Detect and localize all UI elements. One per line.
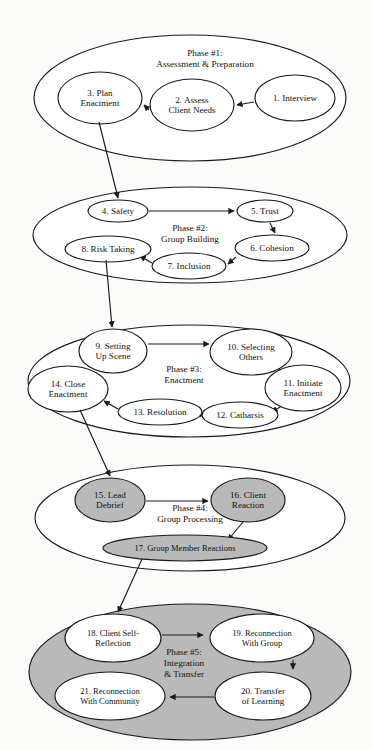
node-11-label: 11. InitiateEnactment [283,378,322,399]
node-14[interactable]: 14. CloseEnactment [28,366,108,412]
node-8[interactable]: 8. Risk Taking [65,236,151,262]
node-9-label: 9. SettingUp Scene [95,341,130,362]
node-15[interactable]: 15. LeadDebrief [75,478,145,522]
process-diagram: Phase #1:Assessment & Preparation1. Inte… [0,0,372,750]
node-20-label: 20. Transferof Learning [241,686,285,707]
node-5-label: 5. Trust [251,206,279,216]
node-10[interactable]: 10. SelectingOthers [210,329,292,375]
node-4-label: 4. Safety [102,206,135,216]
phase-3: Phase #3:Enactment9. SettingUp Scene10. … [28,325,350,437]
node-2[interactable]: 2. AssessClient Needs [150,79,234,131]
node-21-label: 21. ReconnectionWith Community [80,686,140,707]
node-4[interactable]: 4. Safety [88,200,148,222]
node-12[interactable]: 12. Catharsis [202,402,278,428]
node-8-label: 8. Risk Taking [81,244,134,254]
phase-2: Phase #2:Group Building4. Safety5. Trust… [33,187,347,283]
node-21[interactable]: 21. ReconnectionWith Community [55,672,165,720]
node-16[interactable]: 16. ClientReaction [211,478,285,522]
node-9[interactable]: 9. SettingUp Scene [79,329,147,373]
phase-3-label: Phase #3:Enactment [164,364,204,385]
phase-4: Phase #4:Group Processing15. LeadDebrief… [35,465,345,571]
node-13-label: 13. Resolution [133,407,187,417]
node-18[interactable]: 18. Client Self-Reflection [65,614,161,662]
node-1-label: 1. Interview [273,93,317,103]
phase-5-label: Phase #5:Integration& Transfer [164,647,205,679]
node-6[interactable]: 6. Cohesion [235,235,309,261]
phase-5: Phase #5:Integration& Transfer18. Client… [29,604,351,740]
node-19[interactable]: 19. ReconnectionWith Group [210,614,314,662]
phase-1: Phase #1:Assessment & Preparation1. Inte… [34,35,346,161]
node-12-label: 12. Catharsis [216,410,264,420]
node-7[interactable]: 7. Inclusion [152,253,226,279]
node-14-label: 14. CloseEnactment [49,379,88,400]
diagram-canvas: Phase #1:Assessment & Preparation1. Inte… [0,0,372,750]
node-3[interactable]: 3. PlanEnactment [58,72,142,124]
node-17-label: 17. Group Member Reactions [134,543,235,553]
node-5[interactable]: 5. Trust [237,200,293,222]
phases-layer: Phase #1:Assessment & Preparation1. Inte… [28,35,351,740]
node-17[interactable]: 17. Group Member Reactions [103,535,267,561]
node-7-label: 7. Inclusion [168,261,211,271]
node-6-label: 6. Cohesion [250,243,294,253]
node-16-label: 16. ClientReaction [230,490,266,511]
node-13[interactable]: 13. Resolution [118,399,202,425]
node-1[interactable]: 1. Interview [255,75,335,121]
node-15-label: 15. LeadDebrief [94,490,126,511]
node-20[interactable]: 20. Transferof Learning [215,672,311,720]
node-11[interactable]: 11. InitiateEnactment [265,365,341,411]
